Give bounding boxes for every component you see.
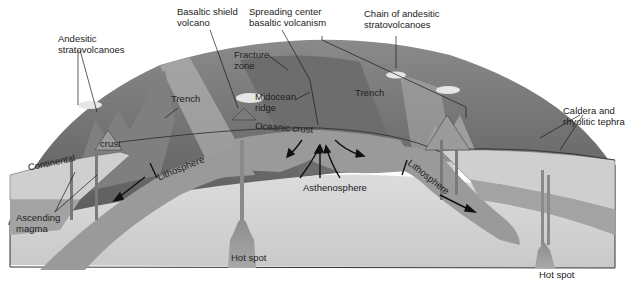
label-midocean-ridge: Midocean ridge [255,92,296,113]
label-line: Ascending [16,213,60,224]
label-basaltic-shield-volcano: Basaltic shield volcano [177,7,238,28]
label-andesitic-stratovolcanoes: Andesitic stratovolcanoes [58,34,125,55]
label-spreading-center: Spreading center basaltic volcanism [249,7,326,28]
label-chain-of-andesitic: Chain of andesitic stratovolcanoes [364,9,440,30]
label-line: Andesitic [58,34,125,45]
label-fracture-zone: Fracture zone [234,50,269,71]
label-trench-right: Trench [355,88,384,99]
label-line: Chain of andesitic [364,9,440,20]
label-line: Basaltic shield [177,7,238,18]
label-line: stratovolcanoes [58,45,125,56]
label-line: Spreading center [249,7,326,18]
label-hot-spot-center: Hot spot [231,253,266,264]
label-line: basaltic volcanism [249,18,326,29]
label-line: Fracture [234,50,269,61]
label-line: volcano [177,18,238,29]
label-line: ridge [255,103,296,114]
label-asthenosphere: Asthenosphere [303,183,367,194]
plate-tectonics-diagram: Andesitic stratovolcanoes Basaltic shiel… [0,0,633,281]
label-crust: crust [100,139,121,150]
label-line: magma [16,224,60,235]
label-line: Caldera and [563,106,625,117]
label-ascending-magma: Ascending magma [16,213,60,234]
label-line: Midocean [255,92,296,103]
label-line: stratovolcanoes [364,20,440,31]
label-line: rhyolitic tephra [563,117,625,128]
label-caldera-rhyolitic-tephra: Caldera and rhyolitic tephra [563,106,625,127]
label-hot-spot-right: Hot spot [539,270,574,281]
label-line: zone [234,61,269,72]
label-trench-left: Trench [171,94,200,105]
